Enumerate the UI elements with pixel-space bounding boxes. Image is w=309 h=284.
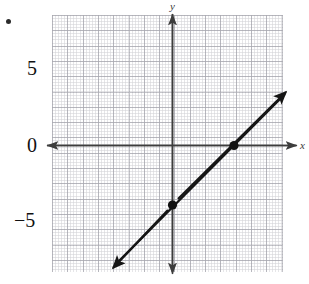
y-tick-label-5: 5: [27, 58, 37, 78]
y-tick-label-neg5: −5: [14, 210, 35, 230]
axes-and-line-layer: [0, 0, 309, 284]
point-y-intercept: [168, 200, 177, 209]
plotted-line-core: [115, 94, 285, 265]
y-tick-label-0: 0: [27, 135, 37, 155]
y-axis-name-label: y: [170, 0, 175, 12]
point-x-intercept: [229, 141, 238, 150]
x-axis-name-label: x: [300, 139, 305, 151]
coordinate-graph-figure: 5 0 −5 y x: [0, 0, 309, 284]
